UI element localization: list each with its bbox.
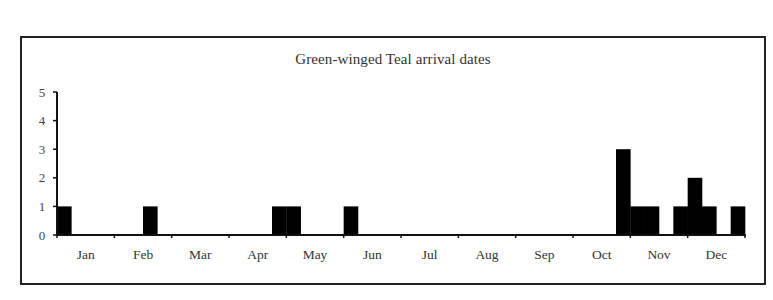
y-tick-label: 5 xyxy=(39,85,46,100)
x-tick-label-aug: Aug xyxy=(475,247,498,262)
x-axis-ticks: JanFebMarAprMayJunJulAugSepOctNovDec xyxy=(57,235,745,262)
x-tick-label-apr: Apr xyxy=(247,247,268,262)
x-tick-label-dec: Dec xyxy=(705,247,727,262)
bar xyxy=(344,206,359,235)
bar xyxy=(702,206,717,235)
x-tick-label-jan: Jan xyxy=(77,247,95,262)
bar xyxy=(143,206,158,235)
x-tick-label-jun: Jun xyxy=(363,247,382,262)
bar xyxy=(57,206,72,235)
x-tick-label-mar: Mar xyxy=(189,247,212,262)
y-tick-label: 1 xyxy=(39,199,46,214)
x-tick-label-nov: Nov xyxy=(647,247,670,262)
x-tick-label-may: May xyxy=(303,247,328,262)
x-tick-label-jul: Jul xyxy=(422,247,438,262)
y-tick-label: 4 xyxy=(39,113,46,128)
y-tick-label: 3 xyxy=(39,142,46,157)
y-tick-label: 2 xyxy=(39,170,46,185)
bar xyxy=(286,206,301,235)
bar xyxy=(645,206,660,235)
y-axis-ticks: 012345 xyxy=(39,85,57,243)
bars-group xyxy=(57,149,745,235)
bar-chart-plot: 012345 JanFebMarAprMayJunJulAugSepOctNov… xyxy=(0,0,773,300)
bar xyxy=(616,149,631,235)
x-tick-label-sep: Sep xyxy=(534,247,555,262)
x-tick-label-feb: Feb xyxy=(133,247,154,262)
y-tick-label: 0 xyxy=(39,228,46,243)
bar xyxy=(673,206,688,235)
bar xyxy=(630,206,645,235)
bar xyxy=(272,206,287,235)
x-tick-label-oct: Oct xyxy=(592,247,612,262)
bar xyxy=(688,178,703,235)
bar xyxy=(731,206,746,235)
